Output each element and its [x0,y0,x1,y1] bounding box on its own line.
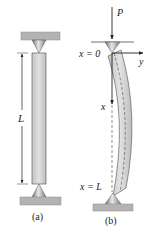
bottom-position-label: x = L [79,181,102,192]
straight-column [32,53,46,184]
top-position-label: x = 0 [78,48,100,59]
top-pin-icon [32,40,46,53]
base-plate [93,204,133,211]
caption-b: (b) [105,215,117,227]
column-buckling-diagram: L (a) P x y x = 0 x = L (b) [0,0,152,233]
panel-b: P x y x = 0 x = L (b) [78,7,144,227]
x-axis-label: x [100,101,106,112]
base-plate [20,197,61,205]
y-axis-label: y [138,56,144,67]
caption-a: (a) [32,211,43,223]
load-label: P [116,7,123,18]
bottom-pin-icon [32,184,46,199]
top-support-plate [21,32,60,40]
panel-a: L (a) [17,32,61,223]
length-label: L [17,112,24,124]
bottom-pin-icon [105,193,121,206]
